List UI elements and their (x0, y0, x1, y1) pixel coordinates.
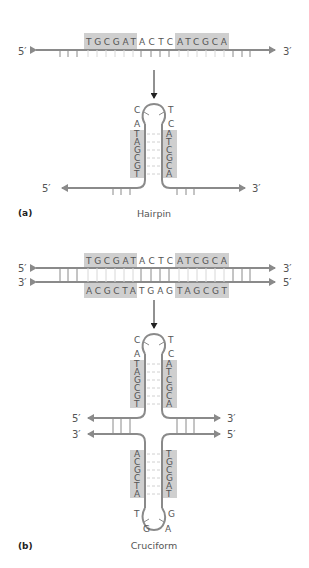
panel-b-duplex: 5′ 3′ 3′ 5′ TGCGAT ACTC ATCGCA ACGCTA TG… (18, 253, 292, 298)
loop-base: C (168, 119, 174, 129)
svg-text:3′: 3′ (18, 277, 27, 288)
svg-text:ACTC: ACTC (139, 256, 173, 266)
end-label-5prime: 5′ (18, 46, 27, 57)
svg-text:T: T (165, 489, 172, 499)
hairpin-3prime: 3′ (252, 183, 261, 194)
sequence-middle: ACTC (139, 37, 173, 47)
panel-b-cruciform: C A T C T A G C G T A T C G C A 5′ 3′ 3′… (72, 334, 236, 534)
svg-text:TGAG: TGAG (138, 286, 173, 296)
svg-text:G: G (168, 509, 175, 519)
panel-label-b: (b) (18, 541, 33, 551)
svg-text:3′: 3′ (227, 413, 236, 424)
svg-text:5′: 5′ (72, 413, 81, 424)
loop-base: A (134, 119, 141, 129)
caption-hairpin: Hairpin (137, 208, 171, 219)
svg-text:A: A (166, 169, 173, 179)
svg-text:3′: 3′ (283, 263, 292, 274)
svg-text:3′: 3′ (72, 429, 81, 440)
svg-text:A: A (166, 399, 173, 409)
loop-base: C (134, 105, 140, 115)
hairpin-5prime: 5′ (42, 183, 51, 194)
svg-text:5′: 5′ (227, 429, 236, 440)
panel-label-a: (a) (18, 208, 32, 218)
loop-base: T (167, 105, 174, 115)
svg-text:T: T (133, 399, 140, 409)
svg-text:5′: 5′ (18, 263, 27, 274)
panel-a-hairpin: 5′ 3′ C A T C T A G C G T A T C G C A (42, 104, 261, 195)
panel-a-linear-strand: 5′ 3′ TGCGAT ACTC ATCGCA (18, 33, 292, 57)
svg-text:C: C (134, 335, 140, 345)
caption-cruciform: Cruciform (131, 540, 178, 551)
svg-text:5′: 5′ (283, 277, 292, 288)
svg-text:A: A (165, 524, 172, 534)
end-label-3prime: 3′ (283, 46, 292, 57)
sequence-box-left (84, 33, 137, 50)
svg-text:A: A (134, 349, 141, 359)
stem-right-bases: A T C G C A (165, 129, 173, 179)
svg-text:T: T (133, 169, 140, 179)
svg-text:T: T (133, 509, 140, 519)
hairpin-loop (143, 104, 165, 124)
svg-text:A: A (134, 489, 141, 499)
dna-structure-diagram: 5′ 3′ TGCGAT ACTC ATCGCA 5′ 3′ C A T C (0, 0, 309, 568)
svg-text:C: C (168, 349, 174, 359)
sequence-right: ATCGCA (177, 37, 228, 47)
svg-text:ATCGCA: ATCGCA (177, 256, 228, 266)
svg-text:T: T (167, 335, 174, 345)
svg-text:G: G (143, 524, 150, 534)
